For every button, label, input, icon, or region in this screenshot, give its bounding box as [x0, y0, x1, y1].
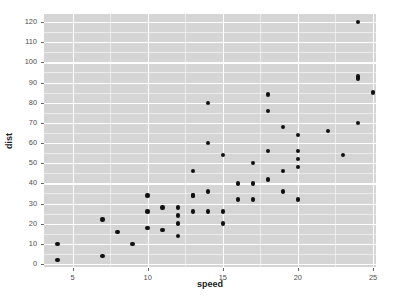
- gridline-minor-horizontal: [44, 254, 376, 255]
- y-tick-label: 20: [29, 220, 37, 228]
- gridline-minor-horizontal: [44, 72, 376, 73]
- data-point: [100, 217, 104, 221]
- data-point: [251, 161, 255, 165]
- data-point: [176, 221, 180, 225]
- x-tick-mark: [223, 268, 224, 271]
- y-tick-mark: [41, 204, 44, 205]
- x-tick-mark: [373, 268, 374, 271]
- gridline-minor-horizontal: [44, 32, 376, 33]
- data-point: [145, 193, 149, 197]
- data-point: [145, 226, 149, 230]
- gridline-minor-vertical: [185, 14, 186, 267]
- gridline-major-horizontal: [44, 143, 376, 144]
- data-point: [55, 258, 59, 262]
- y-tick-label: 40: [29, 179, 37, 187]
- y-tick-label: 50: [29, 159, 37, 167]
- data-point: [251, 197, 255, 201]
- data-point: [296, 165, 300, 169]
- gridline-major-horizontal: [44, 62, 376, 63]
- data-point: [296, 157, 300, 161]
- data-point: [206, 189, 210, 193]
- data-point: [281, 125, 285, 129]
- y-tick-mark: [41, 244, 44, 245]
- data-point: [266, 92, 270, 96]
- y-tick-label: 110: [25, 38, 37, 46]
- gridline-minor-horizontal: [44, 93, 376, 94]
- data-point: [176, 205, 180, 209]
- data-point: [341, 153, 345, 157]
- data-point: [191, 209, 195, 213]
- data-point: [191, 193, 195, 197]
- y-tick-mark: [41, 183, 44, 184]
- y-tick-label: 10: [29, 240, 37, 248]
- gridline-major-horizontal: [44, 224, 376, 225]
- data-point: [371, 90, 375, 94]
- data-point: [236, 197, 240, 201]
- gridline-minor-vertical: [260, 14, 261, 267]
- gridline-major-horizontal: [44, 183, 376, 184]
- gridline-major-horizontal: [44, 103, 376, 104]
- gridline-minor-horizontal: [44, 234, 376, 235]
- data-point: [356, 121, 360, 125]
- gridline-minor-horizontal: [44, 113, 376, 114]
- gridline-minor-horizontal: [44, 52, 376, 53]
- gridline-major-vertical: [298, 14, 299, 267]
- data-point: [281, 189, 285, 193]
- scatter-plot-figure: 0102030405060708090100110120 510152025 d…: [0, 0, 398, 307]
- data-point: [115, 230, 119, 234]
- data-point: [221, 209, 225, 213]
- data-point: [206, 141, 210, 145]
- x-tick-mark: [148, 268, 149, 271]
- gridline-minor-horizontal: [44, 173, 376, 174]
- x-tick-mark: [298, 268, 299, 271]
- data-point: [296, 133, 300, 137]
- y-tick-label: 120: [25, 18, 37, 26]
- data-point: [176, 234, 180, 238]
- gridline-minor-vertical: [110, 14, 111, 267]
- data-point: [100, 254, 104, 258]
- y-tick-mark: [41, 83, 44, 84]
- gridline-minor-horizontal: [44, 193, 376, 194]
- gridline-major-vertical: [223, 14, 224, 267]
- data-point: [176, 213, 180, 217]
- gridline-minor-vertical: [335, 14, 336, 267]
- data-point: [356, 74, 360, 78]
- gridline-major-horizontal: [44, 264, 376, 265]
- gridline-major-horizontal: [44, 22, 376, 23]
- y-tick-mark: [41, 264, 44, 265]
- gridline-minor-horizontal: [44, 133, 376, 134]
- y-tick-label: 30: [29, 200, 37, 208]
- data-point: [356, 20, 360, 24]
- plot-panel: [44, 14, 376, 267]
- data-point: [221, 153, 225, 157]
- y-tick-mark: [41, 42, 44, 43]
- data-point: [160, 228, 164, 232]
- gridline-major-horizontal: [44, 204, 376, 205]
- y-tick-label: 70: [29, 119, 37, 127]
- y-tick-mark: [41, 62, 44, 63]
- x-tick-mark: [73, 268, 74, 271]
- y-tick-mark: [41, 103, 44, 104]
- y-axis-title-label: dist: [4, 132, 14, 148]
- gridline-minor-horizontal: [44, 214, 376, 215]
- gridline-major-horizontal: [44, 83, 376, 84]
- data-point: [206, 101, 210, 105]
- data-point: [296, 197, 300, 201]
- y-tick-mark: [41, 123, 44, 124]
- gridline-major-horizontal: [44, 123, 376, 124]
- data-point: [251, 181, 255, 185]
- data-point: [130, 242, 134, 246]
- data-point: [160, 205, 164, 209]
- gridline-minor-horizontal: [44, 153, 376, 154]
- gridline-major-horizontal: [44, 163, 376, 164]
- y-tick-mark: [41, 143, 44, 144]
- gridline-major-vertical: [373, 14, 374, 267]
- y-axis-title: dist: [2, 0, 16, 281]
- y-tick-label: 100: [25, 58, 37, 66]
- y-tick-mark: [41, 22, 44, 23]
- gridline-major-horizontal: [44, 42, 376, 43]
- y-tick-label: 80: [29, 99, 37, 107]
- data-point: [55, 242, 59, 246]
- gridline-major-vertical: [73, 14, 74, 267]
- y-tick-label: 60: [29, 139, 37, 147]
